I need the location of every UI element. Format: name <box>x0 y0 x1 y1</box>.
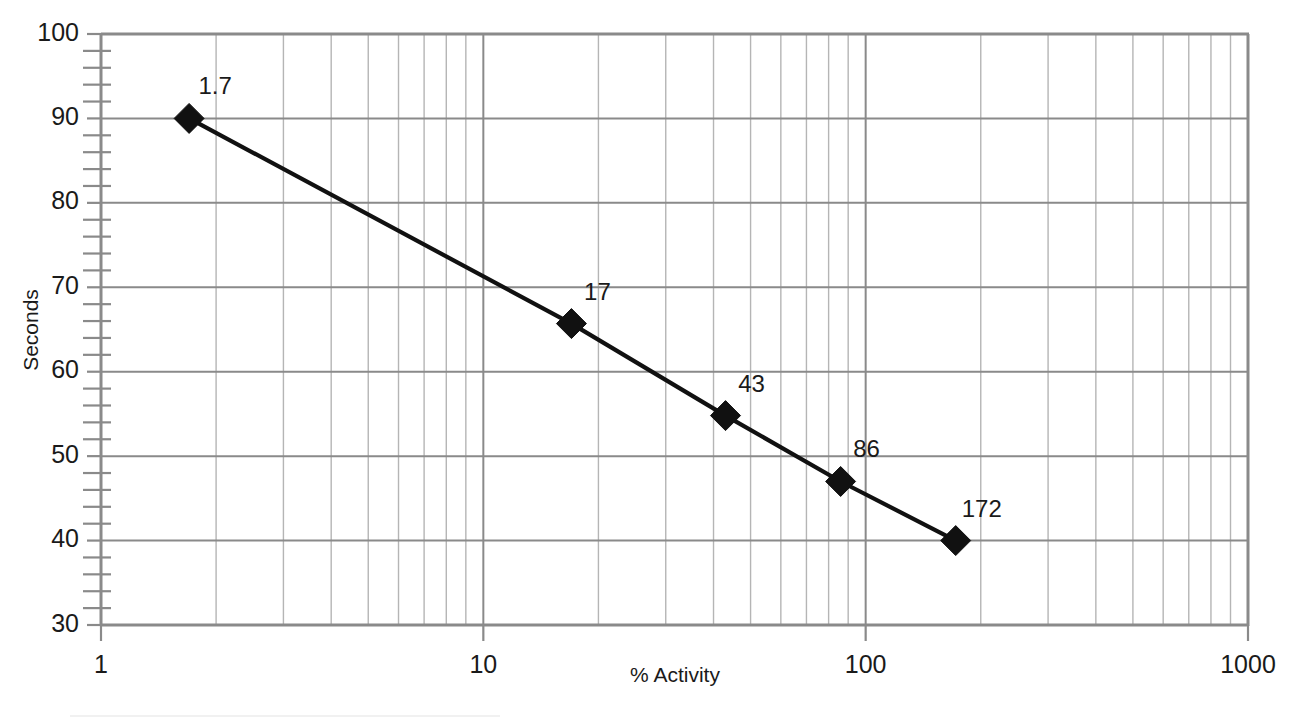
x-axis-title: % Activity <box>630 663 720 686</box>
x-axis-tick-label: 1 <box>94 650 108 678</box>
data-point-label: 1.7 <box>198 72 231 99</box>
x-axis-tick-label: 100 <box>845 650 887 678</box>
x-axis-tick-label: 10 <box>469 650 497 678</box>
y-axis-tick-label: 40 <box>51 524 79 552</box>
y-axis-tick-label: 30 <box>51 609 79 637</box>
y-axis-tick-label: 80 <box>51 186 79 214</box>
y-axis-tick-label: 60 <box>51 355 79 383</box>
y-axis-tick-label: 50 <box>51 440 79 468</box>
data-point-label: 172 <box>962 495 1002 522</box>
y-axis-tick-label: 70 <box>51 271 79 299</box>
data-point-label: 43 <box>738 370 765 397</box>
x-axis-tick-label: 1000 <box>1220 650 1276 678</box>
data-point-label: 17 <box>584 278 611 305</box>
data-point-label: 86 <box>853 435 880 462</box>
chart-container: 30405060708090100 1101001000 1.717438617… <box>0 0 1297 726</box>
y-axis-title: Seconds <box>19 289 42 371</box>
y-axis-tick-label: 90 <box>51 102 79 130</box>
semilog-line-chart: 30405060708090100 1101001000 1.717438617… <box>0 0 1297 726</box>
y-axis-tick-label: 100 <box>37 18 79 46</box>
